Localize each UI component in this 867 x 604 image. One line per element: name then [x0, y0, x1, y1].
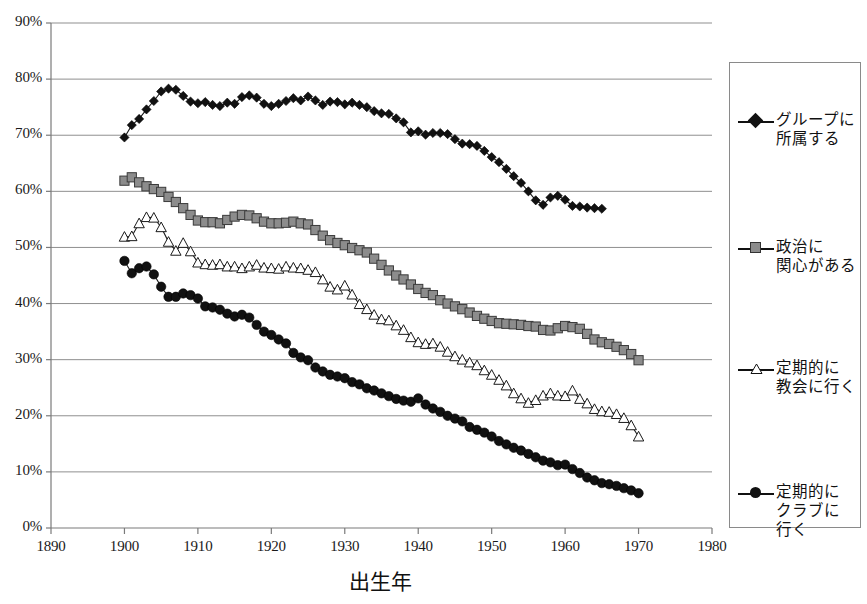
- diamond-icon: [748, 113, 764, 129]
- y-axis-tick-label: 10%: [15, 462, 42, 479]
- data-point-diamond: [340, 100, 349, 109]
- legend-marker-diamond-icon: [736, 113, 776, 131]
- x-axis-tick-label: 1950: [462, 538, 522, 555]
- data-point-circle: [142, 262, 151, 271]
- data-point-circle: [245, 313, 254, 322]
- data-point-diamond: [384, 109, 393, 118]
- legend-item-1[interactable]: グループに 所属する: [736, 111, 860, 149]
- y-axis-tick-label: 60%: [15, 181, 42, 198]
- x-axis-tick-label: 1920: [241, 538, 301, 555]
- legend-marker-circle-icon: [736, 485, 776, 503]
- data-point-triangle: [428, 338, 438, 348]
- chart-container: 出生年 グループに 所属する政治に 関心がある定期的に 教会に行く定期的に クラ…: [0, 0, 867, 604]
- data-point-diamond: [267, 101, 276, 110]
- data-point-triangle: [127, 231, 137, 241]
- data-point-circle: [634, 489, 643, 498]
- triangle-icon: [750, 363, 763, 375]
- data-point-triangle: [156, 222, 166, 232]
- x-axis-tick-label: 1970: [609, 538, 669, 555]
- legend-item-3[interactable]: 定期的に 教会に行く: [736, 359, 860, 397]
- data-point-diamond: [333, 98, 342, 107]
- x-axis-tick-label: 1940: [388, 538, 448, 555]
- data-point-triangle: [251, 260, 261, 270]
- data-point-diamond: [186, 97, 195, 106]
- data-point-circle: [281, 339, 290, 348]
- x-axis-tick-label: 1980: [682, 538, 742, 555]
- square-icon: [750, 242, 761, 253]
- y-axis-tick-label: 40%: [15, 294, 42, 311]
- y-axis-tick-label: 50%: [15, 237, 42, 254]
- legend-label: 定期的に 教会に行く: [776, 359, 856, 397]
- data-point-diamond: [193, 99, 202, 108]
- data-point-triangle: [633, 431, 643, 441]
- data-point-triangle: [567, 385, 577, 395]
- y-axis-tick-label: 20%: [15, 406, 42, 423]
- chart-legend: グループに 所属する政治に 関心がある定期的に 教会に行く定期的に クラブに 行…: [729, 62, 861, 528]
- data-point-circle: [149, 270, 158, 279]
- legend-item-2[interactable]: 政治に 関心がある: [736, 238, 860, 276]
- data-point-diamond: [472, 141, 481, 150]
- x-axis-tick-label: 1910: [168, 538, 228, 555]
- x-axis-tick-label: 1960: [535, 538, 595, 555]
- data-point-triangle: [163, 237, 173, 247]
- data-point-diamond: [436, 128, 445, 137]
- data-point-diamond: [348, 98, 357, 107]
- data-point-diamond: [245, 91, 254, 100]
- y-axis-tick-label: 0%: [22, 518, 42, 535]
- data-point-square: [634, 356, 643, 365]
- x-axis-tick-label: 1890: [21, 538, 81, 555]
- legend-item-4[interactable]: 定期的に クラブに 行く: [736, 483, 860, 540]
- y-axis-tick-label: 30%: [15, 350, 42, 367]
- data-point-diamond: [443, 130, 452, 139]
- legend-label: グループに 所属する: [776, 111, 855, 149]
- data-point-circle: [252, 320, 261, 329]
- data-point-diamond: [465, 140, 474, 149]
- y-axis-tick-label: 70%: [15, 125, 42, 142]
- data-point-circle: [193, 294, 202, 303]
- x-axis-title: 出生年: [0, 565, 760, 595]
- legend-label: 政治に 関心がある: [776, 238, 856, 276]
- data-point-circle: [120, 256, 129, 265]
- y-axis-tick-label: 90%: [15, 13, 42, 30]
- y-axis-tick-label: 80%: [15, 69, 42, 86]
- data-point-triangle: [178, 238, 188, 248]
- legend-marker-square-icon: [736, 240, 776, 258]
- series-diamond: [120, 84, 607, 213]
- legend-label: 定期的に クラブに 行く: [776, 483, 840, 540]
- x-axis-tick-label: 1930: [315, 538, 375, 555]
- data-point-circle: [303, 356, 312, 365]
- data-point-diamond: [450, 135, 459, 144]
- data-point-diamond: [575, 202, 584, 211]
- legend-marker-triangle-icon: [736, 361, 776, 379]
- data-point-diamond: [597, 204, 606, 213]
- series-circle: [120, 256, 644, 498]
- data-point-triangle: [340, 280, 350, 290]
- circle-icon: [750, 487, 761, 498]
- data-point-diamond: [355, 100, 364, 109]
- data-point-diamond: [120, 133, 129, 142]
- data-point-circle: [156, 282, 165, 291]
- x-axis-tick-label: 1900: [94, 538, 154, 555]
